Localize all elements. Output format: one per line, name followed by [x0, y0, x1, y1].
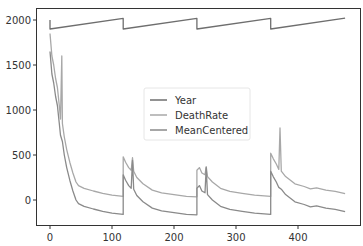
line-chart: 0100200300400 0500100015002000 YearDeath…	[0, 0, 363, 246]
y-tick-label: 1500	[6, 60, 31, 71]
legend-label-deathrate: DeathRate	[175, 110, 228, 121]
y-tick-label: 500	[12, 150, 31, 161]
y-tick-label: 0	[25, 195, 31, 206]
y-tick-label: 1000	[6, 105, 31, 116]
series-line-year	[50, 18, 345, 29]
x-tick-label: 400	[288, 232, 307, 243]
x-tick-label: 100	[102, 232, 121, 243]
x-tick-label: 200	[164, 232, 183, 243]
x-tick-label: 0	[47, 232, 53, 243]
legend: YearDeathRateMeanCentered	[144, 88, 250, 140]
x-axis: 0100200300400	[47, 226, 308, 243]
y-axis: 0500100015002000	[6, 15, 36, 206]
y-tick-label: 2000	[6, 15, 31, 26]
legend-label-meancentered: MeanCentered	[175, 125, 248, 136]
x-tick-label: 300	[226, 232, 245, 243]
legend-label-year: Year	[174, 95, 197, 106]
